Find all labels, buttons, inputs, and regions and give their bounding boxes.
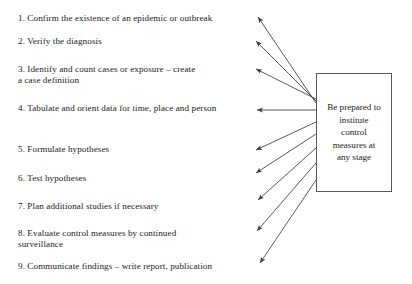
arrow-to-step-8 xyxy=(257,163,316,231)
callout-box-text: Be prepared to institute control measure… xyxy=(322,101,386,163)
arrow-to-step-9 xyxy=(260,180,316,263)
arrow-to-step-1 xyxy=(258,17,316,103)
step-item-8: 8. Evaluate control measures by continue… xyxy=(18,228,256,251)
arrow-to-step-3 xyxy=(256,69,316,99)
step-item-1: 1. Confirm the existence of an epidemic … xyxy=(18,13,256,24)
callout-box: Be prepared to institute control measure… xyxy=(316,73,392,192)
step-item-4: 4. Tabulate and orient data for time, pl… xyxy=(18,103,256,114)
step-item-7: 7. Plan additional studies if necessary xyxy=(18,201,256,212)
step-item-3: 3. Identify and count cases or exposure … xyxy=(18,64,256,87)
step-item-2: 2. Verify the diagnosis xyxy=(18,36,256,47)
step-item-5: 5. Formulate hypotheses xyxy=(18,144,256,155)
arrow-to-step-5 xyxy=(256,122,316,150)
diagram-canvas: 1. Confirm the existence of an epidemic … xyxy=(0,0,412,284)
arrow-to-step-7 xyxy=(258,148,316,200)
step-item-9: 9. Communicate findings – write report, … xyxy=(18,261,256,272)
arrow-to-step-2 xyxy=(256,41,316,101)
step-item-6: 6. Test hypotheses xyxy=(18,173,256,184)
steps-list: 1. Confirm the existence of an epidemic … xyxy=(0,0,256,284)
arrow-to-step-6 xyxy=(256,134,316,173)
